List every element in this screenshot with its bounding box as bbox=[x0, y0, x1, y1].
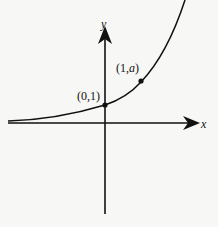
x-axis-label: x bbox=[200, 117, 207, 131]
y-axis-label: y bbox=[100, 17, 107, 31]
point-0-1 bbox=[102, 102, 107, 107]
point-0-1-label: (0,1) bbox=[77, 89, 100, 103]
point-1-a bbox=[138, 78, 143, 83]
exponential-graph: x y (0,1) (1,a) bbox=[0, 0, 218, 227]
point-1-a-label: (1,a) bbox=[116, 61, 139, 75]
